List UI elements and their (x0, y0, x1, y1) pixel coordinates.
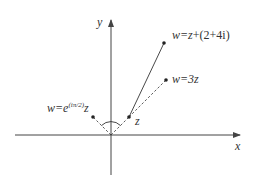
z-to-translate-connector (129, 43, 164, 117)
rotate-label: w=e(iπ/2)z (47, 101, 89, 115)
rotate-label-var: z (83, 101, 89, 115)
rotate-label-exponent: (iπ/2) (68, 101, 84, 109)
translate-label: w=z+(2+4i) (172, 28, 230, 42)
translate-label-prefix: w= (172, 28, 188, 42)
translate-label-suffix: +(2+4i) (193, 28, 230, 42)
scale-label-prefix: w=3 (172, 72, 194, 86)
point-translate (162, 41, 166, 45)
origin-to-rotate-connector (93, 117, 111, 135)
z-label: z (134, 114, 140, 128)
rotate-label-prefix: w=e (47, 101, 69, 115)
z-to-scale-connector (129, 80, 166, 117)
point-scale (164, 78, 168, 82)
x-axis-label: x (234, 139, 241, 153)
scale-label: w=3z (172, 72, 199, 86)
y-axis-label: y (96, 15, 103, 29)
point-rotate (91, 115, 95, 119)
point-z (127, 115, 131, 119)
complex-plane-diagram: x y z w=z+(2+4i) w=3z w=e(iπ/2)z (0, 0, 253, 183)
scale-label-var: z (193, 72, 199, 86)
origin-to-z-connector (111, 117, 129, 135)
